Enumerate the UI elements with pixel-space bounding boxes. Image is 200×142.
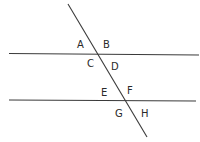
parallel-lines-diagram: A B C D E F G H (0, 0, 200, 142)
upper-parallel-line (9, 54, 199, 56)
transversal-line (68, 4, 147, 137)
angle-label-g: G (115, 108, 123, 119)
angle-label-d: D (111, 61, 119, 72)
angle-label-b: B (103, 39, 110, 50)
angle-label-a: A (77, 39, 84, 50)
angle-label-h: H (141, 108, 149, 119)
angle-label-f: F (127, 85, 133, 96)
angle-label-c: C (87, 58, 94, 69)
angle-label-e: E (101, 87, 107, 98)
lower-parallel-line (9, 100, 196, 101)
